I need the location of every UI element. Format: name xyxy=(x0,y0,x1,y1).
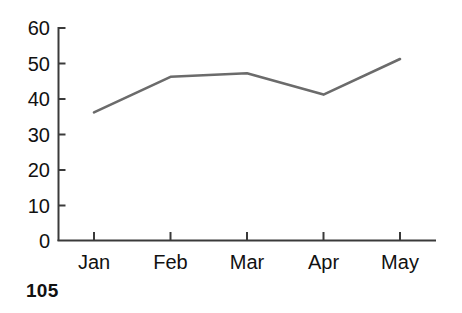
figure-number-label: 105 xyxy=(26,281,59,300)
data-line-series-0 xyxy=(94,59,400,112)
y-tick-label-0: 0 xyxy=(39,230,50,252)
x-tick-label-apr: Apr xyxy=(308,251,339,273)
y-tick-label-10: 10 xyxy=(28,195,50,217)
line-chart: 60 50 40 30 20 10 0 Jan Feb Mar Apr May xyxy=(0,0,462,313)
x-tick-label-feb: Feb xyxy=(153,251,187,273)
y-tick-label-30: 30 xyxy=(28,124,50,146)
x-tick-label-may: May xyxy=(381,251,419,273)
y-tick-label-50: 50 xyxy=(28,53,50,75)
y-tick-marks xyxy=(59,28,66,206)
figure-container: 60 50 40 30 20 10 0 Jan Feb Mar Apr May … xyxy=(0,0,462,313)
y-tick-label-40: 40 xyxy=(28,88,50,110)
y-tick-label-20: 20 xyxy=(28,159,50,181)
x-tick-label-jan: Jan xyxy=(78,251,110,273)
x-tick-label-mar: Mar xyxy=(230,251,265,273)
x-tick-marks xyxy=(94,232,400,241)
y-tick-label-60: 60 xyxy=(28,17,50,39)
